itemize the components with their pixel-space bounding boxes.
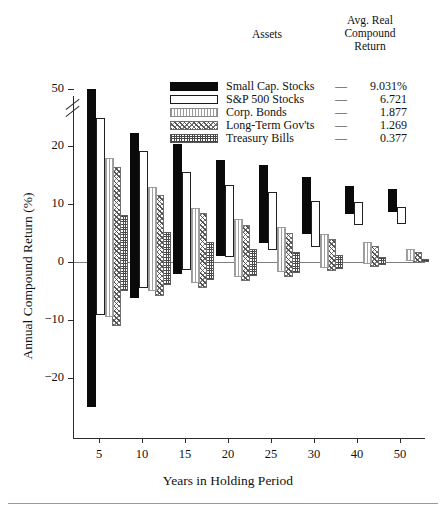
bar-sp500 [268,192,277,250]
bar-sp500 [397,207,406,224]
bar-small-cap [87,89,96,407]
x-tick-mark [228,438,229,443]
x-tick-label: 30 [299,447,329,462]
y-axis-label: Annual Compound Return (%) [20,151,36,401]
x-tick-label: 10 [127,447,157,462]
bar-corp-bonds [320,234,329,268]
bar-small-cap [302,177,311,233]
y-tick-mark [68,146,74,147]
y-tick-mark [68,204,74,205]
bar-small-cap [388,189,397,212]
bar-sp500 [96,118,105,315]
x-tick-label: 20 [213,447,243,462]
x-axis-line [73,438,425,439]
x-tick-mark [357,438,358,443]
y-tick-label: 50 [30,81,64,96]
x-tick-mark [99,438,100,443]
x-tick-label: 40 [342,447,372,462]
bar-corp-bonds [363,242,372,264]
x-tick-label: 25 [256,447,286,462]
y-tick-mark [68,320,74,321]
y-tick-mark [68,262,74,263]
bar-small-cap [130,133,139,298]
x-axis-label: Years in Holding Period [148,473,308,489]
bar-sp500 [139,151,148,288]
bar-sp500 [225,185,234,256]
bar-sp500 [182,172,191,269]
footer-divider [8,503,438,504]
bar-sp500 [311,201,320,247]
y-tick-mark [68,378,74,379]
y-tick-mark [68,89,74,90]
bar-small-cap [345,186,354,214]
x-tick-mark [314,438,315,443]
bar-corp-bonds [191,208,200,283]
bar-sp500 [354,202,363,225]
x-tick-mark [142,438,143,443]
x-tick-mark [271,438,272,443]
figure-root: Assets Avg. Real Compound Return Small C… [0,0,446,516]
plot-area: 5020100−10−20 510152025304050 Annual Com… [0,0,446,516]
bar-small-cap [259,165,268,243]
x-tick-label: 5 [84,447,114,462]
x-tick-mark [185,438,186,443]
x-tick-label: 50 [385,447,415,462]
bar-corp-bonds [277,227,286,272]
x-tick-label: 15 [170,447,200,462]
bar-small-cap [216,160,225,256]
bar-corp-bonds [105,158,114,317]
y-axis-line [73,96,74,438]
bar-corp-bonds [406,249,415,261]
bar-small-cap [173,144,182,275]
bar-corp-bonds [234,219,243,277]
y-axis-break-icon [66,103,82,119]
bar-corp-bonds [148,187,157,291]
x-tick-mark [400,438,401,443]
